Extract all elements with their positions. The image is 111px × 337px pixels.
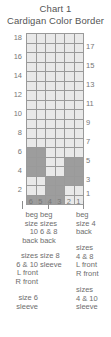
stitch-cell-r14-c2[interactable] <box>65 72 75 82</box>
stitch-cell-r11-c1[interactable] <box>74 100 84 110</box>
stitch-cell-r8-c2[interactable] <box>65 129 75 139</box>
stitch-cell-r10-c6[interactable] <box>27 110 37 120</box>
stitch-cell-r14-c4[interactable] <box>46 72 56 82</box>
stitch-cell-r16-c3[interactable] <box>55 53 65 63</box>
stitch-cell-r16-c5[interactable] <box>36 53 46 63</box>
stitch-cell-r12-c2[interactable] <box>65 91 75 101</box>
stitch-cell-r5-c6[interactable] <box>27 157 37 167</box>
stitch-cell-r5-c3[interactable] <box>55 157 65 167</box>
stitch-cell-r9-c4[interactable] <box>46 119 56 129</box>
stitch-cell-r14-c3[interactable] <box>55 72 65 82</box>
stitch-cell-r4-c5[interactable] <box>36 167 46 177</box>
stitch-cell-r9-c6[interactable] <box>27 119 37 129</box>
stitch-cell-r7-c5[interactable] <box>36 138 46 148</box>
stitch-cell-r18-c5[interactable] <box>36 34 46 44</box>
stitch-cell-r17-c2[interactable] <box>65 43 75 53</box>
stitch-cell-r16-c4[interactable] <box>46 53 56 63</box>
stitch-cell-r3-c3[interactable] <box>55 176 65 186</box>
stitch-cell-r4-c6[interactable] <box>27 167 37 177</box>
stitch-cell-r10-c1[interactable] <box>74 110 84 120</box>
stitch-cell-r17-c6[interactable] <box>27 43 37 53</box>
stitch-cell-r3-c4[interactable] <box>46 176 56 186</box>
stitch-cell-r10-c5[interactable] <box>36 110 46 120</box>
stitch-cell-r10-c4[interactable] <box>46 110 56 120</box>
stitch-cell-r10-c2[interactable] <box>65 110 75 120</box>
stitch-cell-r7-c4[interactable] <box>46 138 56 148</box>
stitch-cell-r3-c1[interactable] <box>74 176 84 186</box>
stitch-cell-r12-c1[interactable] <box>74 91 84 101</box>
stitch-cell-r6-c6[interactable] <box>27 148 37 158</box>
stitch-cell-r3-c5[interactable] <box>36 176 46 186</box>
stitch-cell-r13-c2[interactable] <box>65 81 75 91</box>
stitch-cell-r8-c4[interactable] <box>46 129 56 139</box>
stitch-cell-r3-c2[interactable] <box>65 176 75 186</box>
stitch-cell-r11-c6[interactable] <box>27 100 37 110</box>
stitch-cell-r7-c1[interactable] <box>74 138 84 148</box>
stitch-cell-r9-c2[interactable] <box>65 119 75 129</box>
stitch-cell-r11-c3[interactable] <box>55 100 65 110</box>
stitch-cell-r17-c5[interactable] <box>36 43 46 53</box>
stitch-cell-r18-c2[interactable] <box>65 34 75 44</box>
stitch-cell-r13-c3[interactable] <box>55 81 65 91</box>
stitch-cell-r12-c3[interactable] <box>55 91 65 101</box>
stitch-cell-r15-c4[interactable] <box>46 62 56 72</box>
stitch-cell-r5-c4[interactable] <box>46 157 56 167</box>
stitch-cell-r4-c4[interactable] <box>46 167 56 177</box>
stitch-cell-r16-c6[interactable] <box>27 53 37 63</box>
stitch-cell-r5-c1[interactable] <box>74 157 84 167</box>
stitch-cell-r2-c4[interactable] <box>46 186 56 196</box>
stitch-cell-r14-c1[interactable] <box>74 72 84 82</box>
stitch-cell-r2-c5[interactable] <box>36 186 46 196</box>
stitch-cell-r18-c1[interactable] <box>74 34 84 44</box>
stitch-cell-r7-c2[interactable] <box>65 138 75 148</box>
stitch-cell-r12-c6[interactable] <box>27 91 37 101</box>
stitch-cell-r6-c3[interactable] <box>55 148 65 158</box>
stitch-cell-r11-c2[interactable] <box>65 100 75 110</box>
stitch-cell-r13-c1[interactable] <box>74 81 84 91</box>
stitch-cell-r5-c5[interactable] <box>36 157 46 167</box>
stitch-cell-r2-c1[interactable] <box>74 186 84 196</box>
stitch-cell-r13-c6[interactable] <box>27 81 37 91</box>
stitch-cell-r4-c1[interactable] <box>74 167 84 177</box>
stitch-cell-r14-c6[interactable] <box>27 72 37 82</box>
stitch-cell-r12-c5[interactable] <box>36 91 46 101</box>
stitch-cell-r16-c2[interactable] <box>65 53 75 63</box>
stitch-cell-r16-c1[interactable] <box>74 53 84 63</box>
stitch-cell-r11-c5[interactable] <box>36 100 46 110</box>
stitch-cell-r11-c4[interactable] <box>46 100 56 110</box>
stitch-grid[interactable] <box>26 33 84 205</box>
stitch-cell-r8-c1[interactable] <box>74 129 84 139</box>
stitch-cell-r6-c5[interactable] <box>36 148 46 158</box>
stitch-cell-r7-c3[interactable] <box>55 138 65 148</box>
stitch-cell-r7-c6[interactable] <box>27 138 37 148</box>
stitch-cell-r2-c3[interactable] <box>55 186 65 196</box>
stitch-cell-r15-c6[interactable] <box>27 62 37 72</box>
stitch-cell-r13-c4[interactable] <box>46 81 56 91</box>
stitch-cell-r8-c3[interactable] <box>55 129 65 139</box>
stitch-cell-r15-c1[interactable] <box>74 62 84 72</box>
stitch-cell-r18-c4[interactable] <box>46 34 56 44</box>
stitch-cell-r6-c4[interactable] <box>46 148 56 158</box>
stitch-cell-r3-c6[interactable] <box>27 176 37 186</box>
stitch-cell-r15-c3[interactable] <box>55 62 65 72</box>
stitch-cell-r2-c2[interactable] <box>65 186 75 196</box>
stitch-cell-r12-c4[interactable] <box>46 91 56 101</box>
stitch-cell-r18-c3[interactable] <box>55 34 65 44</box>
stitch-cell-r4-c3[interactable] <box>55 167 65 177</box>
stitch-cell-r2-c6[interactable] <box>27 186 37 196</box>
stitch-cell-r6-c1[interactable] <box>74 148 84 158</box>
stitch-cell-r17-c3[interactable] <box>55 43 65 53</box>
stitch-cell-r17-c4[interactable] <box>46 43 56 53</box>
stitch-cell-r18-c6[interactable] <box>27 34 37 44</box>
stitch-cell-r13-c5[interactable] <box>36 81 46 91</box>
stitch-cell-r14-c5[interactable] <box>36 72 46 82</box>
stitch-cell-r10-c3[interactable] <box>55 110 65 120</box>
stitch-cell-r6-c2[interactable] <box>65 148 75 158</box>
stitch-cell-r15-c2[interactable] <box>65 62 75 72</box>
stitch-cell-r5-c2[interactable] <box>65 157 75 167</box>
stitch-cell-r8-c6[interactable] <box>27 129 37 139</box>
stitch-cell-r9-c1[interactable] <box>74 119 84 129</box>
stitch-cell-r9-c3[interactable] <box>55 119 65 129</box>
stitch-cell-r8-c5[interactable] <box>36 129 46 139</box>
stitch-cell-r15-c5[interactable] <box>36 62 46 72</box>
